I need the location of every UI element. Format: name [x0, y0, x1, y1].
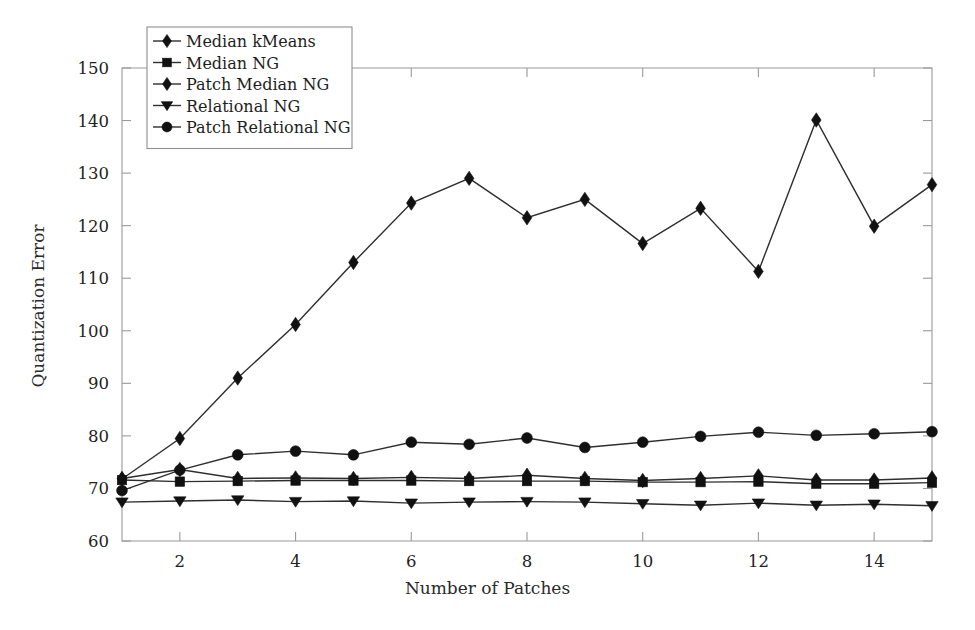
data-point-circle [162, 122, 172, 132]
data-point-diamond [349, 255, 359, 269]
data-point-circle [927, 426, 938, 437]
data-point-triangle-down [926, 502, 938, 512]
data-point-triangle-down [694, 501, 706, 511]
data-point-diamond [754, 264, 764, 278]
y-axis-label-wrapper: Quantization Error [28, 206, 48, 406]
data-point-triangle-down [405, 499, 417, 509]
data-point-circle [174, 465, 185, 476]
y-tick-label: 120 [78, 217, 110, 236]
data-point-circle [117, 485, 128, 496]
y-tick-label: 140 [78, 112, 110, 131]
data-series-group [116, 113, 938, 512]
data-point-circle [464, 439, 475, 450]
data-point-circle [579, 442, 590, 453]
data-point-square [175, 477, 184, 486]
data-point-circle [232, 449, 243, 460]
data-point-circle [522, 433, 533, 444]
x-axis-label: Number of Patches [405, 578, 570, 598]
series-median-kmeans [117, 113, 937, 486]
y-tick-label: 110 [78, 269, 110, 288]
y-tick-label: 70 [88, 479, 109, 498]
legend-label: Patch Relational NG [186, 118, 351, 137]
x-tick-label: 6 [406, 552, 417, 571]
y-tick-label: 130 [78, 164, 110, 183]
data-point-circle [695, 431, 706, 442]
data-point-circle [348, 449, 359, 460]
data-point-circle [811, 430, 822, 441]
data-point-diamond [175, 431, 185, 445]
data-point-square [163, 58, 172, 67]
x-tick-label: 14 [864, 552, 885, 571]
x-tick-label: 8 [522, 552, 533, 571]
y-tick-label: 60 [88, 532, 109, 551]
y-tick-label: 150 [78, 59, 110, 78]
series-line [122, 120, 932, 479]
data-point-circle [290, 446, 301, 457]
legend-label: Patch Median NG [186, 75, 329, 94]
data-point-triangle-down [116, 498, 128, 508]
legend-label: Median kMeans [186, 32, 316, 51]
y-tick-label: 90 [88, 374, 109, 393]
chart-plot-area: 60708090100110120130140150 2468101214 Me… [0, 0, 975, 630]
data-point-diamond [464, 171, 474, 185]
legend-label: Relational NG [186, 97, 300, 116]
y-axis-label: Quantization Error [28, 224, 48, 387]
x-tick-label: 4 [290, 552, 301, 571]
data-point-diamond [580, 192, 590, 206]
data-point-triangle-down [810, 501, 822, 511]
data-point-diamond [291, 317, 301, 331]
data-point-triangle-down [289, 497, 301, 507]
quantization-error-chart-figure: 60708090100110120130140150 2468101214 Me… [0, 0, 975, 630]
data-point-diamond [638, 236, 648, 250]
data-point-diamond [696, 201, 706, 215]
x-tick-label: 2 [175, 552, 186, 571]
legend-label: Median NG [186, 54, 279, 73]
x-axis-label-wrapper: Number of Patches [0, 578, 975, 598]
chart-legend: Median kMeansMedian NGPatch Median NGRel… [147, 27, 352, 149]
data-point-diamond [927, 177, 937, 191]
y-tick-label: 100 [78, 322, 110, 341]
data-point-circle [406, 437, 417, 448]
x-tick-label: 12 [748, 552, 769, 571]
data-point-diamond [522, 211, 532, 225]
data-point-circle [753, 427, 764, 438]
data-point-circle [637, 437, 648, 448]
series-relational-ng [116, 496, 938, 512]
data-point-circle [869, 428, 880, 439]
y-tick-label: 80 [88, 427, 109, 446]
data-point-diamond [233, 371, 243, 385]
data-point-diamond [406, 196, 416, 210]
x-tick-label: 10 [632, 552, 653, 571]
